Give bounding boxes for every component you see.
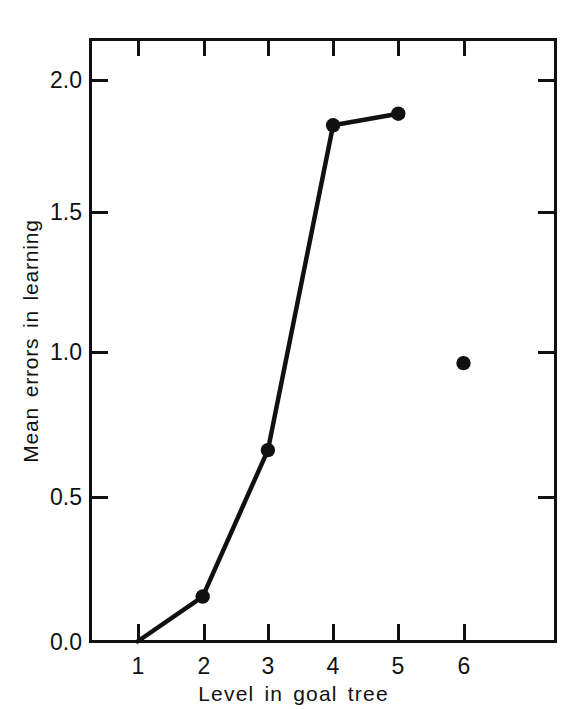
x-tick-mark-top-5 — [397, 40, 400, 56]
x-tick-label-group: 1 2 3 4 5 6 — [0, 655, 587, 685]
x-tick-label-5: 5 — [378, 655, 418, 678]
x-tick-mark-top-6 — [463, 40, 466, 56]
y-tick-mark-4 — [92, 79, 108, 82]
x-tick-mark-top-2 — [203, 40, 206, 56]
figure-chart: 0.0 0.5 1.0 1.5 2.0 1 2 3 4 5 6 Mean err… — [0, 0, 587, 709]
x-tick-mark-2 — [203, 624, 206, 640]
x-tick-mark-top-1 — [137, 40, 140, 56]
plot-frame — [89, 38, 557, 643]
y-tick-label-2: 1.0 — [50, 341, 82, 364]
y-tick-mark-1 — [92, 496, 108, 499]
x-tick-mark-6 — [463, 624, 466, 640]
x-tick-label-2: 2 — [184, 655, 224, 678]
x-tick-mark-top-3 — [267, 40, 270, 56]
y-tick-mark-3 — [92, 211, 108, 214]
x-tick-label-4: 4 — [313, 655, 353, 678]
y-tick-label-3: 1.5 — [50, 201, 82, 224]
x-axis-title: Level in goal tree — [0, 682, 587, 706]
x-tick-mark-3 — [267, 624, 270, 640]
y-tick-label-4: 2.0 — [50, 69, 82, 92]
y-tick-label-1: 0.5 — [50, 486, 82, 509]
y-tick-mark-2 — [92, 351, 108, 354]
x-tick-label-1: 1 — [118, 655, 158, 678]
y-tick-mark-right-3 — [538, 211, 554, 214]
x-tick-label-3: 3 — [248, 655, 288, 678]
x-tick-mark-4 — [332, 624, 335, 640]
x-tick-mark-1 — [137, 624, 140, 640]
x-tick-mark-5 — [397, 624, 400, 640]
y-tick-mark-right-4 — [538, 79, 554, 82]
y-tick-mark-right-2 — [538, 351, 554, 354]
y-tick-label-0: 0.0 — [50, 631, 82, 654]
y-tick-mark-right-1 — [538, 496, 554, 499]
y-axis-title: Mean errors in learning — [19, 201, 43, 481]
x-tick-label-6: 6 — [444, 655, 484, 678]
x-tick-mark-top-4 — [332, 40, 335, 56]
y-tick-mark-0 — [92, 640, 108, 643]
